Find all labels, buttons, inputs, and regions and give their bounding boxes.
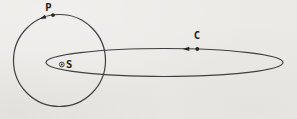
orbit-diagram: S P C	[0, 0, 297, 119]
sun-icon-dot	[61, 64, 63, 66]
planet-arrowhead-icon	[40, 15, 47, 19]
comet-dot	[195, 47, 199, 51]
sun-label: S	[66, 58, 72, 70]
comet-arrowhead-icon	[183, 47, 190, 51]
planet-orbit-circle	[14, 15, 106, 107]
planet-dot	[51, 13, 55, 17]
comet-label: C	[194, 29, 200, 41]
sun-icon	[59, 62, 64, 67]
planet-label: P	[45, 1, 51, 13]
orbit-diagram-figure: S P C	[0, 0, 297, 119]
comet-orbit-ellipse	[46, 49, 283, 77]
